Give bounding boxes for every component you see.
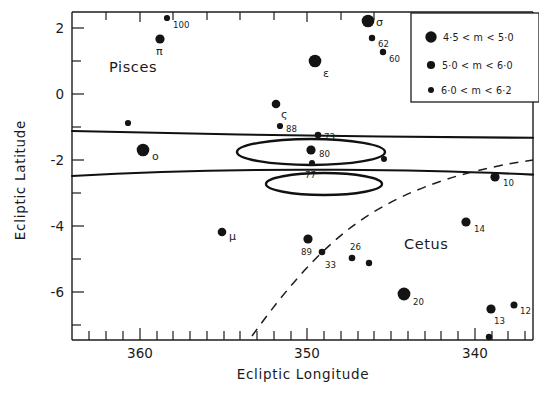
legend-entry-label: 5·0 < m < 6·0 xyxy=(442,60,513,71)
star-point[interactable] xyxy=(125,120,131,126)
star-dot[interactable] xyxy=(490,172,499,181)
star-label: 77 xyxy=(305,170,316,180)
star-dot[interactable] xyxy=(461,217,470,226)
star-point[interactable] xyxy=(486,334,492,340)
star-dot[interactable] xyxy=(164,15,170,21)
legend-entry-label: 6·0 < m < 6·2 xyxy=(441,85,512,96)
star-dot[interactable] xyxy=(398,288,411,301)
constellation-label-cetus: Cetus xyxy=(404,236,448,252)
star-dot[interactable] xyxy=(362,15,375,28)
star-dot[interactable] xyxy=(319,249,326,256)
star-point[interactable]: 62 xyxy=(369,35,389,49)
star-label: 80 xyxy=(319,149,330,159)
star-label: π xyxy=(156,45,163,58)
legend-dot-large xyxy=(425,31,436,42)
star-label: 60 xyxy=(389,54,400,64)
star-dot[interactable] xyxy=(309,160,315,166)
star-label: 100 xyxy=(173,20,189,30)
star-label: o xyxy=(152,150,159,163)
star-point[interactable]: μ xyxy=(218,228,236,243)
star-label: 13 xyxy=(494,316,505,326)
ytick-label: -4 xyxy=(51,218,64,234)
x-axis-title: Ecliptic Longitude xyxy=(237,366,370,382)
star-point[interactable]: 73 xyxy=(315,132,335,142)
legend-dot-small xyxy=(428,87,434,93)
xaxis-tick-labels: 360 350 340 xyxy=(127,345,488,361)
star-dot[interactable] xyxy=(349,255,356,262)
star-dot[interactable] xyxy=(218,228,227,237)
legend-entry[interactable]: 6·0 < m < 6·2 xyxy=(428,85,512,96)
legend-dot-medium xyxy=(427,61,435,69)
star-point[interactable]: 77 xyxy=(305,160,316,180)
ytick-label: -6 xyxy=(51,284,64,300)
star-dot[interactable] xyxy=(369,35,375,41)
star-label: ς xyxy=(281,108,287,121)
star-label: μ xyxy=(229,230,236,243)
yaxis-tick-labels: 2 0 -2 -4 -6 xyxy=(51,20,64,300)
legend: 4·5 < m < 5·0 5·0 < m < 6·0 6·0 < m < 6·… xyxy=(411,13,539,102)
star-dot[interactable] xyxy=(380,49,386,55)
star-point[interactable]: 60 xyxy=(380,49,400,64)
star-point[interactable]: 88 xyxy=(277,123,297,134)
star-dot[interactable] xyxy=(125,120,131,126)
ecliptic-star-chart-figure: 2 0 -2 -4 -6 360 350 340 Ecliptic Longit… xyxy=(0,0,539,399)
star-point[interactable]: 14 xyxy=(461,217,485,234)
star-dot[interactable] xyxy=(155,34,164,43)
star-point[interactable]: 80 xyxy=(306,145,330,159)
chart-canvas: 2 0 -2 -4 -6 360 350 340 Ecliptic Longit… xyxy=(0,0,539,399)
star-point[interactable]: σ xyxy=(362,15,383,29)
star-point[interactable]: ς xyxy=(272,100,288,121)
star-point[interactable]: 12 xyxy=(511,302,531,317)
star-dot[interactable] xyxy=(137,144,150,157)
legend-entry-label: 4·5 < m < 5·0 xyxy=(443,32,514,43)
star-label: 62 xyxy=(378,39,389,49)
star-label: 73 xyxy=(324,132,335,142)
xaxis-ticks xyxy=(89,328,525,340)
ytick-label: 2 xyxy=(55,20,64,36)
ytick-label: -2 xyxy=(51,152,64,168)
star-point[interactable]: 89 xyxy=(301,234,313,257)
star-label: 14 xyxy=(474,224,485,234)
constellation-label-pisces: Pisces xyxy=(109,59,157,75)
xtick-label: 360 xyxy=(127,345,153,361)
star-point[interactable]: π xyxy=(155,34,164,58)
xaxis-ticks-top xyxy=(106,12,374,22)
star-label: 89 xyxy=(301,247,312,257)
star-label: 10 xyxy=(503,178,514,188)
star-dot[interactable] xyxy=(486,334,492,340)
star-label: 12 xyxy=(520,306,531,316)
star-dot[interactable] xyxy=(315,132,322,139)
star-label: 33 xyxy=(325,260,336,270)
star-dot[interactable] xyxy=(306,145,315,154)
star-label: 20 xyxy=(413,297,424,307)
star-point[interactable]: o xyxy=(137,144,159,163)
star-point[interactable]: 100 xyxy=(164,15,190,30)
star-label: σ xyxy=(376,16,383,29)
y-axis-title: Ecliptic Latitude xyxy=(12,120,28,240)
star-point[interactable]: 10 xyxy=(490,172,514,188)
star-dot[interactable] xyxy=(277,123,283,129)
xtick-label: 340 xyxy=(462,345,488,361)
star-point[interactable]: 26 xyxy=(349,242,361,261)
star-point[interactable]: 13 xyxy=(486,304,505,326)
star-point[interactable]: 33 xyxy=(319,249,336,270)
xtick-label: 350 xyxy=(294,345,320,361)
ytick-label: 0 xyxy=(55,86,64,102)
star-dot[interactable] xyxy=(366,260,372,266)
zodiacal-band-upper-curve xyxy=(72,131,533,138)
star-point[interactable]: 20 xyxy=(398,288,424,307)
star-label: 88 xyxy=(286,124,297,134)
star-dot[interactable] xyxy=(303,234,312,243)
star-dot[interactable] xyxy=(309,55,322,68)
star-dot[interactable] xyxy=(486,304,495,313)
star-dot[interactable] xyxy=(511,302,518,309)
star-label: ε xyxy=(323,67,329,80)
ellipse-node-dot xyxy=(381,156,387,162)
star-dot[interactable] xyxy=(272,100,281,109)
star-point[interactable] xyxy=(366,260,372,266)
star-label: 26 xyxy=(350,242,361,252)
star-point[interactable]: ε xyxy=(309,55,329,80)
ellipse-lower xyxy=(266,173,382,195)
